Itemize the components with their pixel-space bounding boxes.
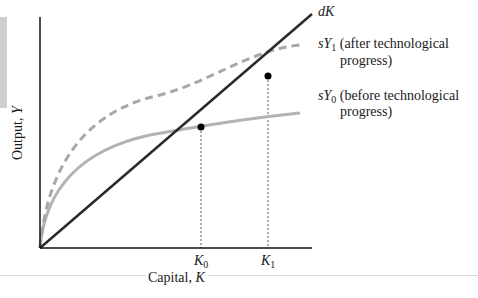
dk-label: dK (318, 4, 334, 20)
dk-line (40, 14, 312, 248)
sy0-curve (40, 113, 300, 248)
sy1-label-line2: progress) (340, 53, 392, 69)
sy1-label: sY1 (after technological (318, 36, 449, 52)
x-axis-label: Capital, K (146, 270, 207, 286)
sy0-label: sY0 (before technological (318, 88, 459, 104)
k0-tick-label: K0 (194, 253, 208, 269)
k0-steady-state-point (198, 124, 205, 131)
sy1-curve (40, 45, 300, 248)
sy0-label-line2: progress) (340, 104, 392, 120)
k1-tick-label: K1 (261, 253, 275, 269)
y-axis-label: Output, Y (10, 106, 26, 160)
k1-steady-state-point (265, 73, 272, 80)
